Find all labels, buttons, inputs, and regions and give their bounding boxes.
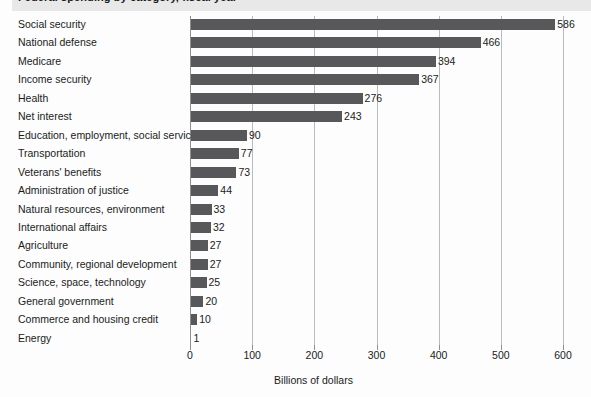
category-label: Transportation xyxy=(18,147,85,160)
x-tick-label-300: 300 xyxy=(352,349,402,361)
category-label: National defense xyxy=(18,36,97,49)
chart-title-band: Federal spending by category, fiscal yea… xyxy=(12,0,591,11)
bar xyxy=(191,167,236,178)
x-tick-label-500: 500 xyxy=(476,349,526,361)
bar xyxy=(191,148,239,159)
bar xyxy=(191,130,247,141)
x-tick-label-100: 100 xyxy=(227,349,277,361)
bar xyxy=(191,19,555,30)
bar-value-label: 44 xyxy=(220,184,232,197)
bar-row: Natural resources, environment33 xyxy=(0,201,591,220)
x-tick-label-200: 200 xyxy=(289,349,339,361)
bar xyxy=(191,185,218,196)
bar-value-label: 27 xyxy=(210,258,222,271)
bar xyxy=(191,93,363,104)
category-label: Social security xyxy=(18,18,86,31)
bar-value-label: 276 xyxy=(365,92,383,105)
bar-row: Agriculture27 xyxy=(0,237,591,256)
bar-value-label: 77 xyxy=(241,147,253,160)
category-label: Health xyxy=(18,92,48,105)
bar-row: Income security367 xyxy=(0,71,591,90)
bar xyxy=(191,240,208,251)
bar-row: Administration of justice44 xyxy=(0,182,591,201)
chart-figure: Federal spending by category, fiscal yea… xyxy=(0,0,591,397)
bar xyxy=(191,259,208,270)
bar-value-label: 10 xyxy=(199,313,211,326)
bar xyxy=(191,74,419,85)
category-label: Administration of justice xyxy=(18,184,129,197)
bar-value-label: 33 xyxy=(214,203,226,216)
bar-value-label: 586 xyxy=(557,18,575,31)
bar-row: Health276 xyxy=(0,90,591,109)
bar-value-label: 25 xyxy=(209,276,221,289)
bar-row: National defense466 xyxy=(0,34,591,53)
bar-row: Net interest243 xyxy=(0,108,591,127)
bar xyxy=(191,56,436,67)
bar-value-label: 394 xyxy=(438,55,456,68)
bar xyxy=(191,296,203,307)
category-label: Community, regional development xyxy=(18,258,177,271)
bar-row: Social security586 xyxy=(0,16,591,35)
bar xyxy=(191,277,207,288)
bar xyxy=(191,111,342,122)
bar-value-label: 90 xyxy=(249,129,261,142)
x-axis-title: Billions of dollars xyxy=(0,374,591,386)
x-tick-label-600: 600 xyxy=(538,349,588,361)
bar-row: Transportation77 xyxy=(0,145,591,164)
bar-value-label: 32 xyxy=(213,221,225,234)
bar-row: Medicare394 xyxy=(0,53,591,72)
bar-row: Community, regional development27 xyxy=(0,256,591,275)
bar-row: Commerce and housing credit10 xyxy=(0,311,591,330)
bar xyxy=(191,37,481,48)
bar-value-label: 243 xyxy=(344,110,362,123)
bar-value-label: 27 xyxy=(210,239,222,252)
bar-row: Education, employment, social services90 xyxy=(0,127,591,146)
bar-row: Science, space, technology25 xyxy=(0,274,591,293)
category-label: Income security xyxy=(18,73,92,86)
bar-value-label: 466 xyxy=(483,36,501,49)
category-label: Science, space, technology xyxy=(18,276,146,289)
bar-value-label: 73 xyxy=(238,166,250,179)
bar-row: Veterans' benefits73 xyxy=(0,164,591,183)
bar-value-label: 20 xyxy=(205,295,217,308)
category-label: Veterans' benefits xyxy=(18,166,101,179)
category-label: Energy xyxy=(18,332,51,345)
category-label: Education, employment, social services xyxy=(18,129,202,142)
bar xyxy=(191,204,212,215)
x-tick-label-0: 0 xyxy=(165,349,215,361)
x-axis-title-label: Billions of dollars xyxy=(274,374,353,386)
bar-row: Energy1 xyxy=(0,330,591,349)
category-label: Medicare xyxy=(18,55,61,68)
bar xyxy=(191,222,211,233)
category-label: Net interest xyxy=(18,110,72,123)
category-label: Natural resources, environment xyxy=(18,203,164,216)
bar xyxy=(191,314,197,325)
chart-title: Federal spending by category, fiscal yea… xyxy=(18,0,237,3)
category-label: General government xyxy=(18,295,114,308)
category-label: Agriculture xyxy=(18,239,68,252)
bar-row: General government20 xyxy=(0,293,591,312)
bar-value-label: 367 xyxy=(421,73,439,86)
x-tick-label-400: 400 xyxy=(414,349,464,361)
category-label: Commerce and housing credit xyxy=(18,313,158,326)
bar-value-label: 1 xyxy=(194,332,200,345)
bar-row: International affairs32 xyxy=(0,219,591,238)
category-label: International affairs xyxy=(18,221,107,234)
